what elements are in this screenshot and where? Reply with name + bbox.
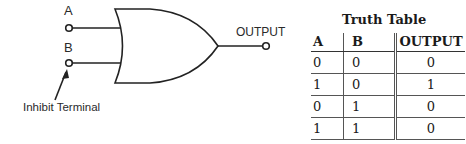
or-gate-symbol-icon xyxy=(0,0,300,144)
input-b-label: B xyxy=(64,40,73,55)
cell-a: 1 xyxy=(311,74,344,96)
table-row: 1 1 0 xyxy=(311,118,465,140)
truth-table-title: Truth Table xyxy=(342,12,426,27)
cell-b: 1 xyxy=(344,96,396,118)
cell-a: 1 xyxy=(311,118,344,140)
truth-table: A B OUTPUT 0 0 0 1 0 1 0 1 0 1 1 0 xyxy=(311,33,465,140)
logic-gate-diagram: A B OUTPUT Inhibit Terminal xyxy=(0,0,300,144)
header-b: B xyxy=(344,33,396,52)
header-a: A xyxy=(311,33,344,52)
table-row: 1 0 1 xyxy=(311,74,465,96)
header-output: OUTPUT xyxy=(396,33,466,52)
cell-a: 0 xyxy=(311,96,344,118)
cell-b: 0 xyxy=(344,74,396,96)
table-row: 0 1 0 xyxy=(311,96,465,118)
input-b-terminal xyxy=(66,60,73,67)
cell-a: 0 xyxy=(311,52,344,74)
cell-output: 0 xyxy=(396,118,466,140)
output-terminal xyxy=(263,43,270,50)
table-row: 0 0 0 xyxy=(311,52,465,74)
input-a-label: A xyxy=(64,3,73,18)
input-a-terminal xyxy=(66,25,73,32)
truth-table-header-row: A B OUTPUT xyxy=(311,33,465,52)
cell-b: 1 xyxy=(344,118,396,140)
output-label: OUTPUT xyxy=(236,25,285,39)
gate-body xyxy=(115,9,218,83)
inhibit-arrow-head-icon xyxy=(62,69,69,79)
cell-output: 1 xyxy=(396,74,466,96)
cell-output: 0 xyxy=(396,52,466,74)
cell-output: 0 xyxy=(396,96,466,118)
inhibit-terminal-label: Inhibit Terminal xyxy=(23,101,100,113)
cell-b: 0 xyxy=(344,52,396,74)
